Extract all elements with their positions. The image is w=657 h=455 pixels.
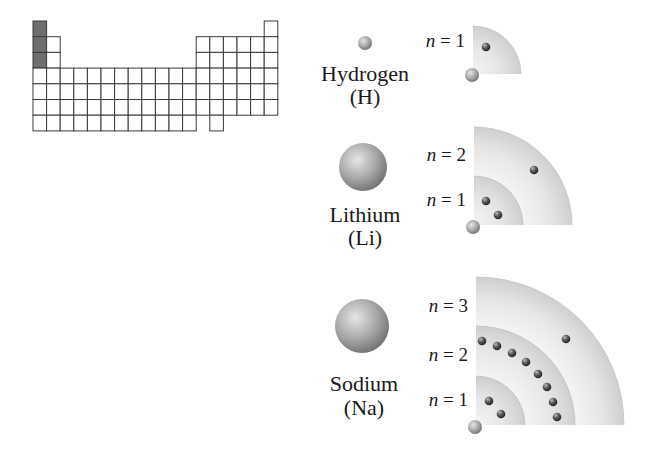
periodic-cell: [101, 68, 115, 84]
periodic-cell: [142, 115, 156, 131]
periodic-cell: [196, 84, 210, 100]
periodic-cell: [237, 37, 251, 53]
periodic-cell: [251, 52, 265, 68]
periodic-cell: [101, 115, 115, 131]
nucleus: [468, 420, 482, 434]
periodic-cell: [47, 84, 61, 100]
electron: [478, 337, 487, 346]
electron: [482, 197, 491, 206]
periodic-cell: [237, 68, 251, 84]
electron: [534, 370, 543, 379]
nucleus: [466, 220, 480, 234]
periodic-cell: [251, 37, 265, 53]
periodic-cell: [210, 68, 224, 84]
periodic-cell: [155, 84, 169, 100]
periodic-cell: [74, 84, 88, 100]
periodic-cell-highlighted: [33, 37, 47, 53]
periodic-cell: [142, 84, 156, 100]
periodic-cell: [223, 84, 237, 100]
periodic-cell: [60, 100, 74, 116]
periodic-cell: [60, 84, 74, 100]
periodic-cell: [237, 84, 251, 100]
element-symbol: (H): [350, 84, 381, 109]
periodic-cell: [128, 115, 142, 131]
atom-size-sphere: [339, 143, 387, 191]
electron: [543, 383, 552, 392]
atom-sodium: n = 3n = 2n = 1Sodium(Na): [330, 277, 624, 434]
periodic-cell: [264, 21, 278, 37]
periodic-cell: [60, 115, 74, 131]
periodic-cell: [101, 84, 115, 100]
atom-hydrogen: n = 1Hydrogen(H): [321, 26, 521, 109]
periodic-cell: [237, 100, 251, 116]
electron: [485, 397, 494, 406]
electron: [530, 166, 539, 175]
periodic-table: [33, 21, 278, 131]
periodic-cell: [223, 68, 237, 84]
periodic-cell: [264, 68, 278, 84]
periodic-cell: [237, 52, 251, 68]
periodic-cell: [115, 115, 129, 131]
periodic-cell: [196, 52, 210, 68]
periodic-cell: [196, 100, 210, 116]
periodic-cell: [264, 84, 278, 100]
shell-label-n3: n = 3: [429, 295, 468, 316]
periodic-cell: [251, 68, 265, 84]
periodic-cell: [74, 100, 88, 116]
periodic-cell: [223, 100, 237, 116]
periodic-cell: [183, 100, 197, 116]
electron: [482, 43, 491, 52]
periodic-cell: [155, 115, 169, 131]
periodic-cell: [210, 84, 224, 100]
periodic-cell: [33, 84, 47, 100]
periodic-cell-highlighted: [33, 21, 47, 37]
element-name: Sodium: [330, 371, 398, 396]
periodic-cell: [60, 68, 74, 84]
periodic-cell: [155, 68, 169, 84]
periodic-cell: [169, 100, 183, 116]
electron: [522, 358, 531, 367]
periodic-cell: [169, 84, 183, 100]
element-name: Lithium: [330, 202, 401, 227]
periodic-cell: [183, 84, 197, 100]
nucleus: [465, 68, 479, 82]
periodic-cell: [210, 100, 224, 116]
periodic-cell: [47, 100, 61, 116]
periodic-cell: [142, 100, 156, 116]
electron-shells: [473, 26, 521, 74]
periodic-cell: [210, 115, 224, 131]
electron: [562, 335, 571, 344]
periodic-cell: [169, 115, 183, 131]
periodic-cell: [196, 37, 210, 53]
periodic-cell: [47, 68, 61, 84]
periodic-cell: [47, 37, 61, 53]
periodic-cell: [115, 84, 129, 100]
periodic-cell: [223, 37, 237, 53]
periodic-cell: [183, 68, 197, 84]
shell-label-n2: n = 2: [429, 344, 468, 365]
periodic-cell: [264, 52, 278, 68]
shell-label-n2: n = 2: [427, 144, 466, 165]
atom-size-sphere: [358, 36, 372, 50]
periodic-cell: [210, 52, 224, 68]
periodic-cell-highlighted: [33, 52, 47, 68]
periodic-cell: [210, 37, 224, 53]
periodic-cell: [196, 68, 210, 84]
electron: [549, 398, 558, 407]
periodic-cell: [128, 68, 142, 84]
periodic-cell: [87, 68, 101, 84]
atomic-structure-figure: n = 1Hydrogen(H)n = 2n = 1Lithium(Li)n =…: [0, 0, 657, 455]
periodic-cell: [183, 115, 197, 131]
atom-size-sphere: [335, 299, 389, 353]
periodic-cell: [115, 100, 129, 116]
electron: [508, 349, 517, 358]
periodic-cell: [47, 52, 61, 68]
periodic-cell: [87, 115, 101, 131]
shell-label-n1: n = 1: [426, 30, 465, 51]
periodic-cell: [33, 100, 47, 116]
periodic-cell: [142, 68, 156, 84]
periodic-cell: [101, 100, 115, 116]
figure-canvas: n = 1Hydrogen(H)n = 2n = 1Lithium(Li)n =…: [0, 0, 657, 455]
periodic-cell: [251, 84, 265, 100]
electron: [494, 211, 503, 220]
